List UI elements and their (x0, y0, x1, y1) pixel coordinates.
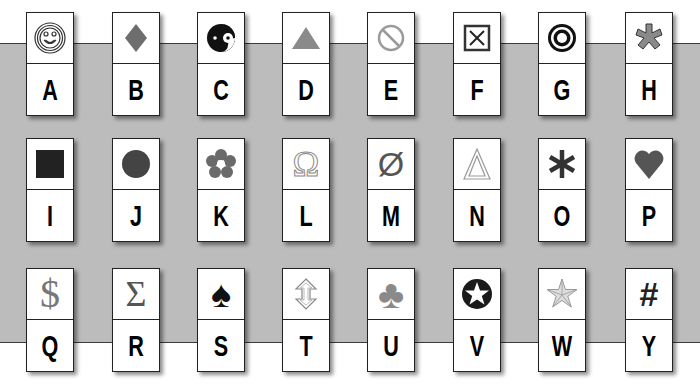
card-letter: B (119, 64, 152, 115)
circle-icon (113, 139, 159, 190)
card-Y[interactable]: # Y (625, 268, 673, 372)
card-M[interactable]: Ø M (367, 138, 415, 242)
smiley-icon (27, 13, 73, 64)
empty-set-icon: Ø (368, 139, 414, 190)
top-divider-line (0, 43, 700, 44)
card-R[interactable]: Σ R (112, 268, 160, 372)
card-letter: O (545, 190, 578, 241)
card-W[interactable]: W (538, 268, 586, 372)
flower-icon (198, 139, 244, 190)
card-letter: H (632, 64, 665, 115)
nautical-star-icon (539, 269, 585, 320)
card-letter: V (460, 320, 493, 371)
card-letter: G (545, 64, 578, 115)
card-A[interactable]: A (26, 12, 74, 116)
spade-icon: ♠ (198, 269, 244, 320)
card-letter: S (204, 320, 237, 371)
card-U[interactable]: ♣ U (367, 268, 415, 372)
card-letter: K (204, 190, 237, 241)
card-S[interactable]: ♠ S (197, 268, 245, 372)
card-E[interactable]: E (367, 12, 415, 116)
square-icon (27, 139, 73, 190)
card-O[interactable]: O (538, 138, 586, 242)
card-letter: I (33, 190, 66, 241)
card-letter: T (289, 320, 322, 371)
asterisk-icon (539, 139, 585, 190)
card-P[interactable]: P (625, 138, 673, 242)
card-H[interactable]: H (625, 12, 673, 116)
sigma-icon: Σ (113, 269, 159, 320)
card-G[interactable]: G (538, 12, 586, 116)
card-letter: Q (33, 320, 66, 371)
card-letter: D (289, 64, 322, 115)
boxed-x-icon (454, 13, 500, 64)
card-letter: N (460, 190, 493, 241)
card-F[interactable]: F (453, 12, 501, 116)
card-letter: P (632, 190, 665, 241)
card-K[interactable]: K (197, 138, 245, 242)
heart-icon (626, 139, 672, 190)
card-V[interactable]: V (453, 268, 501, 372)
omega-icon: Ω (283, 139, 329, 190)
up-down-arrow-icon (283, 269, 329, 320)
bottom-divider-line (0, 342, 700, 343)
card-N[interactable]: N (453, 138, 501, 242)
card-letter: L (289, 190, 322, 241)
dollar-icon: $ (27, 269, 73, 320)
club-icon: ♣ (368, 269, 414, 320)
card-letter: U (374, 320, 407, 371)
card-letter: M (374, 190, 407, 241)
delta-outline-icon (454, 139, 500, 190)
card-C[interactable]: C (197, 12, 245, 116)
card-D[interactable]: D (282, 12, 330, 116)
bullseye-icon (539, 13, 585, 64)
yin-yang-icon (198, 13, 244, 64)
hash-icon: # (626, 269, 672, 320)
card-letter: W (545, 320, 578, 371)
star-in-circle-icon (454, 269, 500, 320)
prohibited-icon (368, 13, 414, 64)
card-J[interactable]: J (112, 138, 160, 242)
asterisk-star-icon (626, 13, 672, 64)
card-letter: E (374, 64, 407, 115)
card-letter: A (33, 64, 66, 115)
card-L[interactable]: Ω L (282, 138, 330, 242)
diamond-icon (113, 13, 159, 64)
gray-band (0, 43, 700, 342)
card-letter: R (119, 320, 152, 371)
triangle-icon (283, 13, 329, 64)
card-letter: F (460, 64, 493, 115)
card-letter: C (204, 64, 237, 115)
card-B[interactable]: B (112, 12, 160, 116)
card-T[interactable]: T (282, 268, 330, 372)
card-Q[interactable]: $ Q (26, 268, 74, 372)
card-letter: Y (632, 320, 665, 371)
card-I[interactable]: I (26, 138, 74, 242)
card-letter: J (119, 190, 152, 241)
